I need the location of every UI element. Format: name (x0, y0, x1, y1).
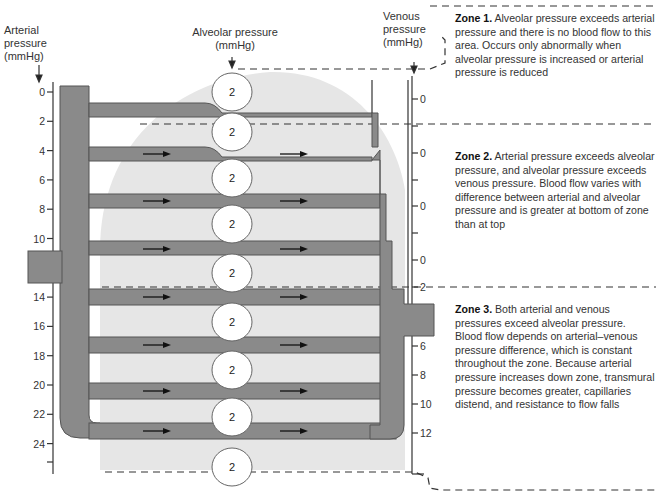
arterial-tick-label: 10 (33, 233, 45, 245)
svg-text:2: 2 (229, 267, 235, 279)
arterial-tick-label: 24 (33, 438, 45, 450)
arterial-tick-label: 2 (39, 115, 45, 127)
svg-text:2: 2 (229, 411, 235, 423)
alveolus: 2 (212, 398, 252, 436)
alveolus: 2 (212, 351, 252, 389)
venous-tick-label: 2 (420, 281, 426, 293)
svg-text:2: 2 (229, 316, 235, 328)
arterial-tick-label: 6 (39, 174, 45, 186)
venous-tick-label: 12 (420, 427, 432, 439)
venous-tick-label: 6 (420, 340, 426, 352)
alveolar-arrow (229, 57, 235, 68)
capillary (89, 289, 392, 305)
svg-text:2: 2 (229, 364, 235, 376)
arterial-tick-label: 20 (33, 379, 45, 391)
alveolus: 2 (212, 448, 252, 486)
venous-axis-title: Venous pressure (mmHg) (383, 10, 426, 49)
arterial-tick-label: 16 (33, 320, 45, 332)
svg-text:2: 2 (229, 172, 235, 184)
svg-text:2: 2 (229, 461, 235, 473)
venous-tick-label: 0 (420, 93, 426, 105)
svg-text:2: 2 (229, 126, 235, 138)
venous-tick-label: 0 (420, 254, 426, 266)
alveolus: 2 (212, 205, 252, 243)
svg-text:2: 2 (229, 86, 235, 98)
arterial-axis-title: Arterial pressure (mmHg) (4, 24, 47, 63)
venous-tick-label: 10 (420, 398, 432, 410)
arterial-tick-label: 8 (39, 203, 45, 215)
svg-text:2: 2 (229, 218, 235, 230)
arterial-tick-label: 18 (33, 350, 45, 362)
venous-tick-label: 8 (420, 369, 426, 381)
alveolus: 2 (212, 113, 252, 151)
arterial-tick-label: 14 (33, 291, 45, 303)
alveolus: 2 (212, 159, 252, 197)
arterial-tick-label: 0 (39, 86, 45, 98)
capillary (89, 337, 396, 353)
zone-3-description: Zone 3. Both arterial and venous pressur… (455, 303, 655, 412)
venous-tick-label: 0 (420, 147, 426, 159)
alveolus: 2 (212, 73, 252, 111)
arterial-inlet (28, 251, 62, 283)
capillary (89, 241, 385, 255)
arterial-tick-label: 22 (33, 408, 45, 420)
zone-2-description: Zone 2. Arterial pressure exceeds alveol… (455, 150, 655, 232)
alveolar-axis-title: Alveolar pressure (mmHg) (192, 26, 278, 52)
alveolus: 2 (212, 254, 252, 292)
venous-tick-label: 0 (420, 200, 426, 212)
lung-lobe (100, 72, 405, 470)
zone-1-description: Zone 1. Alveolar pressure exceeds arteri… (455, 12, 655, 80)
alveolus: 2 (212, 303, 252, 341)
arterial-tick-label: 4 (39, 145, 45, 157)
venule (372, 113, 378, 147)
